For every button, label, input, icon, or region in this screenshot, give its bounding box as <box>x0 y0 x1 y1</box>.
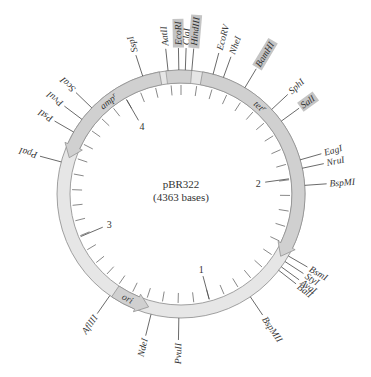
ori-region-segment <box>166 70 192 84</box>
plasmid-size: (4363 bases) <box>153 191 209 204</box>
site-ndei: NdeI <box>135 314 151 358</box>
site-sspi: SspI <box>125 34 143 76</box>
site-label: ScaI <box>58 75 78 95</box>
site-label: AflIII <box>79 313 100 337</box>
site-label: PpaI <box>17 146 39 161</box>
site-aatii: AatII <box>158 25 170 71</box>
site-bspmi: BspMI <box>305 177 356 189</box>
site-label: AatII <box>158 25 170 47</box>
kb-marker-3: 3 <box>107 219 112 230</box>
site-label: PstI <box>35 107 55 124</box>
feature-tet-arrow: tetr <box>200 72 305 256</box>
plasmid-name: pBR322 <box>163 178 200 190</box>
site-label: PvuI <box>44 89 66 109</box>
site-label: SphI <box>287 76 307 96</box>
site-hindiii: HindIII <box>188 14 202 70</box>
site-ppai: PpaI <box>17 146 61 162</box>
site-afliii: AflIII <box>79 296 110 337</box>
site-label: BspMI <box>329 177 356 189</box>
plasmid-map: amprtetrori SspIAatIIEcoRIClaIHindIIIEco… <box>0 0 371 377</box>
site-psti: PstI <box>35 107 73 132</box>
kb-marker-2: 2 <box>256 178 261 189</box>
site-label: BspMII <box>260 315 285 345</box>
site-bspmii: BspMII <box>250 297 285 345</box>
feature-ori-arrow: ori <box>112 286 149 312</box>
kb-marker-4: 4 <box>140 121 145 132</box>
feature-amp-arrow: ampr <box>65 72 162 158</box>
site-bamhi: BamHI <box>245 38 278 88</box>
site-label: PvuII <box>173 342 183 365</box>
site-sali: SalI <box>281 92 319 122</box>
kb-marker-1: 1 <box>199 264 204 275</box>
site-label: SspI <box>125 34 140 53</box>
site-pvuii: PvuII <box>173 318 183 365</box>
site-label: NheI <box>227 34 243 56</box>
site-label: NdeI <box>135 337 150 359</box>
